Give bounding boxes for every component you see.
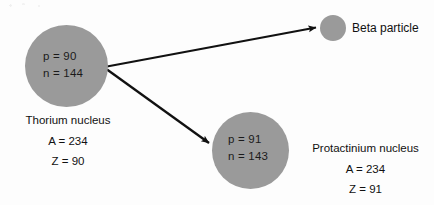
protactinium-atomic-number: Z = 91 <box>297 179 434 200</box>
thorium-nucleus-composition: p = 90 n = 144 <box>43 48 83 81</box>
thorium-neutron-count: n = 144 <box>43 65 83 82</box>
beta-particle-circle <box>320 15 346 41</box>
thorium-mass-number: A = 234 <box>8 131 128 152</box>
thorium-label-block: Thorium nucleus A = 234 Z = 90 <box>8 110 128 172</box>
protactinium-neutron-count: n = 143 <box>228 148 268 165</box>
thorium-name: Thorium nucleus <box>8 110 128 131</box>
protactinium-proton-count: p = 91 <box>228 131 268 148</box>
thorium-atomic-number: Z = 90 <box>8 151 128 172</box>
protactinium-mass-number: A = 234 <box>297 159 434 180</box>
protactinium-nucleus-composition: p = 91 n = 143 <box>228 131 268 164</box>
protactinium-name: Protactinium nucleus <box>297 138 434 159</box>
nuclear-decay-diagram: p = 90 n = 144 Thorium nucleus A = 234 Z… <box>0 0 434 205</box>
beta-emission-arrow <box>107 28 316 67</box>
thorium-proton-count: p = 90 <box>43 48 83 65</box>
protactinium-label-block: Protactinium nucleus A = 234 Z = 91 <box>297 138 434 200</box>
beta-particle-label: Beta particle <box>352 21 419 35</box>
